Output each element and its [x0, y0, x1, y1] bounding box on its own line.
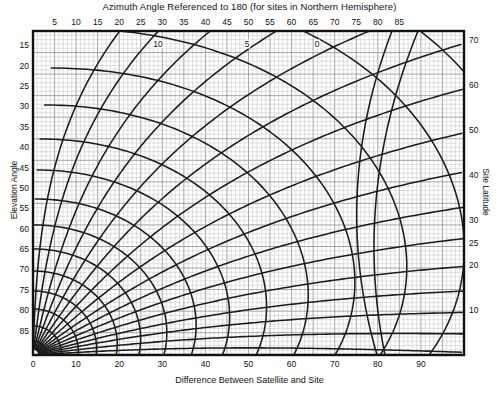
x-tick-60: 60	[287, 359, 296, 369]
x2-tick-30: 30	[158, 17, 167, 27]
x-tick-30: 30	[158, 359, 167, 369]
x-tick-20: 20	[114, 359, 123, 369]
curve-label-0: 0	[314, 40, 320, 49]
x2-tick-65: 65	[308, 17, 317, 27]
y-right-tick-70: 70	[469, 35, 478, 45]
y-left-tick-20: 20	[20, 61, 29, 71]
x2-tick-85: 85	[395, 17, 404, 27]
x-axis-title: Difference Between Satellite and Site	[0, 375, 499, 385]
y-left-tick-85: 85	[20, 326, 29, 336]
x2-tick-80: 80	[373, 17, 382, 27]
y-axis-left-title: Elevation Angle	[9, 145, 19, 235]
y-left-tick-70: 70	[20, 264, 29, 274]
y-right-tick-60: 60	[469, 80, 478, 90]
y-left-tick-80: 80	[20, 305, 29, 315]
x2-tick-75: 75	[352, 17, 361, 27]
curve-label-10: 10	[153, 40, 163, 49]
y-left-tick-65: 65	[20, 244, 29, 254]
x2-tick-15: 15	[93, 17, 102, 27]
x2-tick-50: 50	[244, 17, 253, 27]
y-left-tick-35: 35	[20, 122, 29, 132]
y-right-tick-20: 20	[469, 260, 478, 270]
y-left-tick-60: 60	[20, 224, 29, 234]
x2-tick-10: 10	[71, 17, 80, 27]
x2-tick-70: 70	[330, 17, 339, 27]
y-right-tick-40: 40	[469, 170, 478, 180]
x2-tick-55: 55	[265, 17, 274, 27]
x-tick-0: 0	[31, 359, 36, 369]
curve-label-5: 5	[244, 40, 250, 49]
x2-tick-35: 35	[179, 17, 188, 27]
x2-tick-40: 40	[201, 17, 210, 27]
y-right-tick-30: 30	[469, 215, 478, 225]
y-left-tick-45: 45	[20, 163, 29, 173]
y-left-tick-75: 75	[20, 285, 29, 295]
y-left-tick-30: 30	[20, 101, 29, 111]
nomogram-plot-area	[0, 0, 499, 394]
x-tick-40: 40	[201, 359, 210, 369]
y-right-tick-25: 25	[469, 238, 478, 248]
y-left-tick-15: 15	[20, 40, 29, 50]
x2-tick-25: 25	[136, 17, 145, 27]
x-tick-80: 80	[373, 359, 382, 369]
y-right-tick-50: 50	[469, 125, 478, 135]
x2-tick-20: 20	[114, 17, 123, 27]
y-axis-right-title: Site Latitude	[481, 147, 491, 237]
y-left-tick-50: 50	[20, 183, 29, 193]
y-right-tick-10: 10	[469, 305, 478, 315]
chart-root: Azimuth Angle Referenced to 180 (for sit…	[0, 0, 499, 394]
x2-tick-5: 5	[52, 17, 57, 27]
x-tick-50: 50	[244, 359, 253, 369]
x-tick-90: 90	[416, 359, 425, 369]
y-left-tick-40: 40	[20, 142, 29, 152]
grid-lines	[33, 31, 464, 355]
y-left-tick-25: 25	[20, 81, 29, 91]
x-tick-70: 70	[330, 359, 339, 369]
x2-tick-45: 45	[222, 17, 231, 27]
x2-tick-60: 60	[287, 17, 296, 27]
y-left-tick-55: 55	[20, 203, 29, 213]
x-tick-10: 10	[71, 359, 80, 369]
